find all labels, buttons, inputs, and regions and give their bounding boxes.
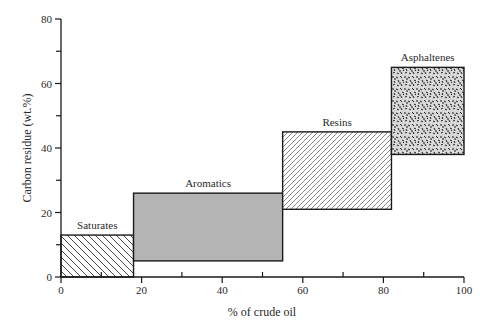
- x-tick-label: 40: [217, 284, 229, 296]
- y-tick-label: 60: [41, 78, 53, 90]
- x-tick-label: 60: [297, 284, 309, 296]
- box-label: Asphaltenes: [401, 51, 455, 63]
- box-resins: Resins: [283, 116, 392, 209]
- x-tick-label: 20: [136, 284, 148, 296]
- y-tick-label: 80: [41, 13, 53, 25]
- box-label: Resins: [322, 116, 351, 128]
- box-aromatics: Aromatics: [134, 177, 283, 261]
- plot-area: SaturatesAromaticsResinsAsphaltenes: [61, 51, 464, 277]
- y-axis-label: Carbon residue (wt.%): [20, 94, 34, 203]
- y-tick-label: 40: [41, 142, 53, 154]
- box-label: Aromatics: [185, 177, 231, 189]
- y-tick-label: 20: [41, 207, 53, 219]
- box-label: Saturates: [77, 219, 117, 231]
- x-axis-label: % of crude oil: [228, 305, 297, 319]
- x-tick-label: 100: [456, 284, 473, 296]
- x-tick-label: 80: [378, 284, 390, 296]
- x-tick-label: 0: [58, 284, 64, 296]
- box-asphaltenes: Asphaltenes: [391, 51, 464, 154]
- box-saturates: Saturates: [61, 219, 134, 277]
- y-tick-label: 0: [47, 271, 53, 283]
- chart: SaturatesAromaticsResinsAsphaltenes 0204…: [0, 0, 498, 325]
